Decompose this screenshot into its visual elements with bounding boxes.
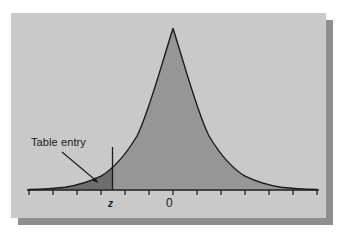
x-axis-label-zero: 0 xyxy=(166,196,173,210)
table-entry-pointer-line xyxy=(62,152,97,181)
table-entry-label: Table entry xyxy=(31,136,86,149)
x-axis-label-z: z xyxy=(108,198,113,209)
x-axis-ticks xyxy=(29,190,317,195)
figure-root: Table entry z 0 xyxy=(0,0,345,239)
area-right-of-z xyxy=(29,29,317,190)
